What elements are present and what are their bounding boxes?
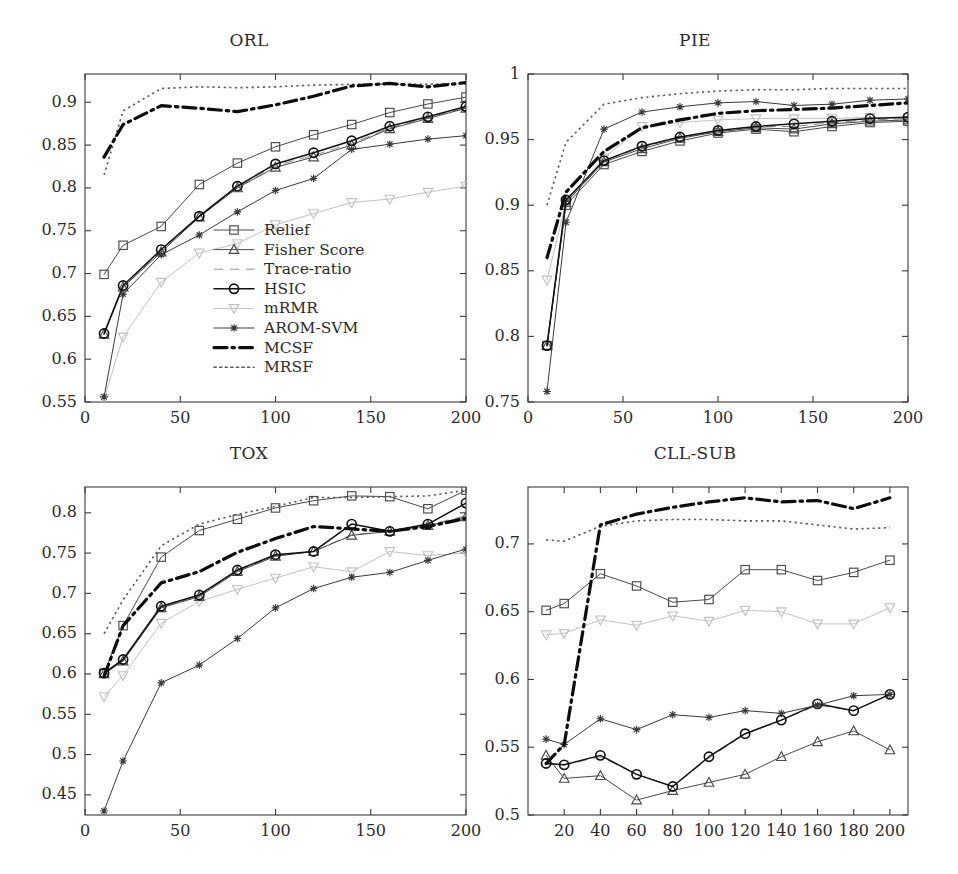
chart-orl: 0.550.60.650.70.750.80.850.9050100150200… — [18, 30, 480, 434]
y-tick-label: 0.8 — [52, 177, 77, 196]
y-tick-label: 0.95 — [484, 129, 520, 148]
plot-area — [541, 498, 894, 804]
panel-tox: TOX 0.450.50.550.60.650.70.750.805010015… — [18, 443, 480, 863]
legend-item-hsic: HSIC — [214, 280, 306, 298]
x-tick-label: 160 — [802, 821, 833, 840]
y-tick-label: 0.75 — [41, 543, 77, 562]
x-tick-label: 50 — [170, 408, 190, 427]
y-tick-label: 0.85 — [484, 260, 520, 279]
x-tick-label: 100 — [260, 821, 291, 840]
legend-label: Relief — [264, 221, 311, 239]
y-tick-label: 0.65 — [41, 623, 77, 642]
series-relief — [100, 486, 470, 677]
legend-label: Fisher Score — [264, 241, 364, 259]
panel-title-pie: PIE — [460, 30, 930, 50]
plot-area — [99, 486, 471, 815]
y-tick-label: 0.55 — [41, 392, 77, 411]
y-tick-label: 0.75 — [484, 392, 520, 411]
y-tick-label: 0.7 — [52, 583, 77, 602]
y-tick-label: 0.75 — [41, 220, 77, 239]
legend-label: AROM-SVM — [263, 319, 358, 337]
legend-item-relief: Relief — [214, 221, 311, 239]
x-tick-label: 50 — [170, 821, 190, 840]
chart-cll-sub: 0.50.550.60.650.720406080100120140160180… — [460, 443, 930, 863]
series-arom-svm — [100, 545, 470, 815]
y-tick-label: 0.55 — [484, 737, 520, 756]
series-mcsf — [104, 518, 466, 676]
series-trace-ratio — [104, 516, 466, 674]
y-tick-label: 0.55 — [41, 704, 77, 723]
legend-label: Trace-ratio — [264, 260, 351, 278]
x-tick-label: 180 — [838, 821, 869, 840]
panel-cll-sub: CLL-SUB 0.50.550.60.650.7204060801001201… — [460, 443, 930, 863]
x-tick-label: 0 — [523, 408, 533, 427]
x-tick-label: 150 — [355, 821, 386, 840]
y-tick-label: 0.6 — [52, 663, 77, 682]
series-mrmr — [541, 604, 894, 640]
series-mrmr — [542, 113, 913, 284]
plot-area — [542, 88, 913, 395]
x-tick-label: 100 — [694, 821, 725, 840]
y-tick-label: 0.65 — [41, 306, 77, 325]
y-tick-label: 0.7 — [495, 533, 520, 552]
x-tick-label: 0 — [80, 408, 90, 427]
legend-item-mcsf: MCSF — [214, 339, 313, 357]
y-tick-label: 0.9 — [495, 195, 520, 214]
x-tick-label: 140 — [766, 821, 797, 840]
legend-label: mRMR — [264, 299, 319, 317]
chart-tox: 0.450.50.550.60.650.70.750.8050100150200 — [18, 443, 480, 863]
series-mcsf — [104, 83, 466, 158]
legend-item-arom-svm: AROM-SVM — [214, 319, 358, 337]
y-tick-label: 0.45 — [41, 784, 77, 803]
series-fisher-score — [99, 512, 471, 678]
legend-item-trace-ratio: Trace-ratio — [214, 260, 351, 278]
series-relief — [543, 117, 912, 350]
y-tick-label: 0.5 — [52, 744, 77, 763]
series-mcsf — [547, 103, 908, 258]
series-fisher-score — [542, 115, 913, 349]
y-tick-label: 0.7 — [52, 263, 77, 282]
y-tick-label: 0.85 — [41, 135, 77, 154]
y-tick-label: 0.8 — [495, 326, 520, 345]
x-tick-label: 50 — [613, 408, 633, 427]
x-tick-label: 150 — [798, 408, 829, 427]
panel-title-orl: ORL — [18, 30, 480, 50]
series-hsic — [542, 113, 912, 350]
y-tick-label: 0.8 — [52, 502, 77, 521]
y-tick-label: 1 — [510, 64, 520, 83]
panel-title-cll-sub: CLL-SUB — [460, 443, 930, 463]
x-tick-label: 80 — [663, 821, 683, 840]
y-tick-label: 0.9 — [52, 92, 77, 111]
x-tick-label: 20 — [554, 821, 574, 840]
x-tick-label: 60 — [626, 821, 646, 840]
x-tick-label: 150 — [355, 408, 386, 427]
series-mrmr — [99, 548, 471, 702]
panel-orl: ORL 0.550.60.650.70.750.80.850.905010015… — [18, 30, 480, 434]
x-tick-label: 200 — [875, 821, 906, 840]
y-tick-label: 0.6 — [495, 669, 520, 688]
legend-label: MCSF — [264, 339, 313, 357]
x-tick-label: 100 — [260, 408, 291, 427]
series-mcsf — [546, 498, 890, 764]
legend-item-mrmr: mRMR — [214, 299, 319, 317]
series-fisher-score — [541, 726, 894, 804]
panel-title-tox: TOX — [18, 443, 480, 463]
x-tick-label: 40 — [590, 821, 610, 840]
y-tick-label: 0.6 — [52, 349, 77, 368]
x-tick-label: 120 — [730, 821, 761, 840]
y-tick-label: 0.5 — [495, 805, 520, 824]
x-tick-label: 200 — [893, 408, 924, 427]
legend-label: MRSF — [264, 358, 313, 376]
figure-panel-grid: ORL 0.550.60.650.70.750.80.850.905010015… — [0, 0, 958, 874]
legend-item-mrsf: MRSF — [214, 358, 313, 376]
x-tick-label: 0 — [80, 821, 90, 840]
series-arom-svm — [543, 95, 912, 395]
y-tick-label: 0.65 — [484, 601, 520, 620]
chart-pie: 0.750.80.850.90.951050100150200 — [460, 30, 930, 434]
legend-label: HSIC — [264, 280, 306, 298]
x-tick-label: 100 — [703, 408, 734, 427]
panel-pie: PIE 0.750.80.850.90.951050100150200 — [460, 30, 930, 434]
series-arom-svm — [542, 691, 893, 749]
